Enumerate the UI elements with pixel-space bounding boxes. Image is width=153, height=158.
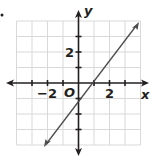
bullet-dot [1, 14, 4, 17]
origin-label: O [64, 85, 75, 100]
x-axis [6, 80, 149, 87]
line-upper-arrow-icon [132, 22, 139, 30]
y-axis-label: y [84, 3, 93, 18]
x-tick-label-neg2: −2 [37, 86, 57, 101]
x-axis-label: x [140, 87, 150, 102]
coordinate-plane: y x O −2 2 2 [0, 0, 153, 158]
y-tick-label-2: 2 [65, 45, 74, 60]
x-tick-label-2: 2 [105, 86, 114, 101]
